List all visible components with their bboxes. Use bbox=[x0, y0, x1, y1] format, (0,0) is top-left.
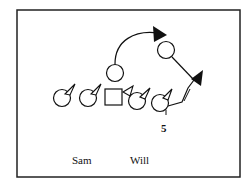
receiver-circle bbox=[158, 42, 175, 59]
center-square bbox=[105, 89, 122, 105]
sam-label: Sam bbox=[72, 154, 92, 166]
will-label: Will bbox=[130, 154, 149, 166]
play-diagram: 5 Sam Will bbox=[0, 0, 252, 188]
player-number-label: 5 bbox=[161, 122, 167, 134]
qb-circle bbox=[107, 65, 124, 82]
